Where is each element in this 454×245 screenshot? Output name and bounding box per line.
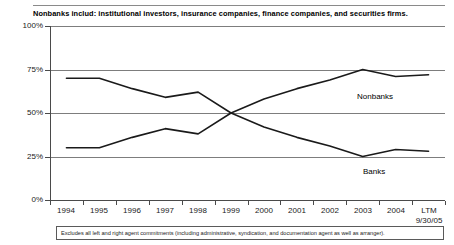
x-axis-tick xyxy=(149,201,150,205)
x-axis-label-main: 2002 xyxy=(321,206,339,215)
x-axis-label-main: 2004 xyxy=(387,206,405,215)
x-axis-label-main: 1997 xyxy=(156,206,174,215)
x-axis-label-main: 1995 xyxy=(90,206,108,215)
header-divider xyxy=(33,5,445,6)
x-axis-tick xyxy=(83,201,84,205)
series-line-nonbanks xyxy=(66,70,428,148)
series-line-banks xyxy=(66,78,428,156)
x-axis-label: LTM9/30/05 xyxy=(406,206,452,226)
x-axis-label-sub: 9/30/05 xyxy=(406,216,452,226)
x-axis-tick xyxy=(50,201,51,205)
x-axis-tick xyxy=(248,201,249,205)
x-axis-label-main: 2001 xyxy=(288,206,306,215)
footnote-box: Excludes all left and right agent commit… xyxy=(56,226,444,240)
x-axis-tick xyxy=(280,201,281,205)
x-axis-tick xyxy=(116,201,117,205)
chart-title: Nonbanks includ: institutional investors… xyxy=(33,9,448,19)
x-axis-label-main: 1999 xyxy=(222,206,240,215)
x-axis-label-main: 1996 xyxy=(123,206,141,215)
y-axis-label: 0% xyxy=(3,195,43,204)
x-axis-label-main: 2000 xyxy=(255,206,273,215)
x-axis-tick xyxy=(182,201,183,205)
gridline xyxy=(50,26,445,27)
chart-root: Nonbanks includ: institutional investors… xyxy=(0,0,454,245)
x-axis-label-main: LTM xyxy=(421,206,436,215)
y-axis-line xyxy=(50,26,51,201)
series-label-banks: Banks xyxy=(363,167,385,176)
x-axis-label-main: 1998 xyxy=(189,206,207,215)
footnote-text: Excludes all left and right agent commit… xyxy=(61,229,385,238)
x-axis-tick xyxy=(215,201,216,205)
gridline xyxy=(50,157,445,158)
x-axis-tick xyxy=(412,201,413,205)
gridline xyxy=(50,70,445,71)
series-label-nonbanks: Nonbanks xyxy=(357,92,393,101)
x-axis-label-main: 1994 xyxy=(57,206,75,215)
y-axis-label: 50% xyxy=(3,108,43,117)
x-axis-label-main: 2003 xyxy=(354,206,372,215)
y-axis-label: 25% xyxy=(3,152,43,161)
x-axis-tick xyxy=(346,201,347,205)
x-axis-tick xyxy=(445,201,446,205)
y-axis-label: 100% xyxy=(3,21,43,30)
gridline xyxy=(50,113,445,114)
x-axis-tick xyxy=(379,201,380,205)
x-axis-tick xyxy=(313,201,314,205)
y-axis-label: 75% xyxy=(3,65,43,74)
